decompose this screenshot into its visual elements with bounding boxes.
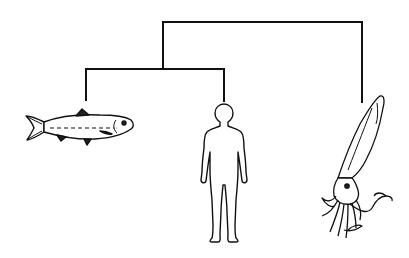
tree-branches	[86, 22, 362, 102]
human-icon	[201, 104, 247, 242]
squid-icon	[322, 96, 392, 238]
root-branch	[163, 22, 362, 102]
fish-icon	[26, 109, 133, 145]
inner-branch	[86, 69, 224, 101]
cladogram-diagram: fish human squid	[0, 0, 409, 258]
